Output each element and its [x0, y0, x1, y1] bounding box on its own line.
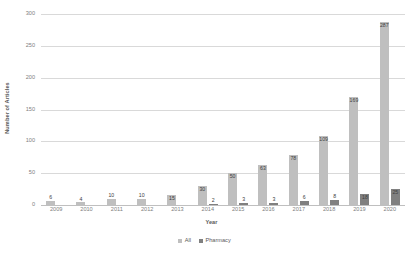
bar-value-label: 4 [80, 197, 83, 202]
bar-value-label: 10 [139, 193, 145, 198]
bar-value-label: 6 [49, 195, 52, 200]
y-axis-tick-label: 100 [26, 139, 35, 145]
legend-label: Pharmacy [206, 238, 231, 244]
legend-swatch-icon [178, 239, 182, 243]
bar[interactable]: 8 [330, 200, 339, 205]
bar-group: 16918 [344, 14, 374, 205]
bar-group: 503 [223, 14, 253, 205]
x-axis-tick-label: 2018 [314, 207, 344, 217]
bar-group: 786 [284, 14, 314, 205]
bar[interactable]: 2 [209, 204, 218, 205]
chart-legend: AllPharmacy [0, 238, 409, 244]
bar[interactable] [118, 204, 127, 205]
bar[interactable]: 6 [46, 201, 55, 205]
y-axis-title: Number of Articles [0, 0, 14, 215]
plot-wrapper: 050100150200250300 641010153025036337861… [14, 14, 409, 206]
bar[interactable]: 63 [258, 165, 267, 205]
bar-value-label: 78 [290, 156, 296, 161]
x-axis-title: Year [14, 219, 409, 225]
bar-value-label: 63 [260, 166, 266, 171]
bar-group: 302 [193, 14, 223, 205]
bar-value-label: 25 [392, 190, 398, 195]
bar-value-label: 15 [169, 196, 175, 201]
bar[interactable]: 169 [349, 97, 358, 205]
x-axis-tick-label: 2012 [132, 207, 162, 217]
bar[interactable]: 6 [300, 201, 309, 205]
bar[interactable]: 109 [319, 136, 328, 205]
bar[interactable]: 4 [76, 202, 85, 205]
x-axis-tick-label: 2019 [344, 207, 374, 217]
bar-value-label: 287 [380, 23, 389, 28]
y-axis-tick-label: 250 [26, 43, 35, 49]
bar[interactable]: 25 [391, 189, 400, 205]
bar[interactable]: 78 [289, 155, 298, 205]
bar-group: 10 [132, 14, 162, 205]
legend-swatch-icon [199, 239, 203, 243]
legend-item[interactable]: All [178, 238, 191, 244]
x-axis-tick-label: 2016 [253, 207, 283, 217]
bar-value-label: 10 [108, 193, 114, 198]
bar-value-label: 30 [199, 187, 205, 192]
bar-value-label: 2 [212, 198, 215, 203]
x-axis-tick-label: 2014 [193, 207, 223, 217]
x-axis-tick-label: 2011 [102, 207, 132, 217]
y-axis-title-text: Number of Articles [4, 82, 10, 134]
y-axis-tick-labels: 050100150200250300 [14, 14, 38, 206]
bar-value-label: 18 [362, 195, 368, 200]
plot-area: 6410101530250363378610981691828725 [41, 14, 405, 206]
bar[interactable] [57, 204, 66, 205]
bar-group: 28725 [375, 14, 405, 205]
bar[interactable]: 287 [380, 22, 389, 205]
x-axis-line [41, 205, 405, 206]
bar[interactable] [178, 204, 187, 205]
x-axis-tick-label: 2009 [41, 207, 71, 217]
y-axis-tick-label: 0 [32, 202, 35, 208]
bar-value-label: 6 [303, 195, 306, 200]
x-axis-tick-label: 2015 [223, 207, 253, 217]
bar-value-label: 3 [273, 197, 276, 202]
bar[interactable]: 3 [239, 203, 248, 205]
x-axis-tick-label: 2013 [162, 207, 192, 217]
y-axis-tick-label: 300 [26, 11, 35, 17]
bar-value-label: 109 [319, 137, 328, 142]
legend-label: All [185, 238, 191, 244]
x-axis-tick-labels: 2009201020112012201320142015201620172018… [41, 207, 405, 217]
bar[interactable]: 10 [137, 199, 146, 205]
bar-value-label: 3 [242, 197, 245, 202]
bar-value-label: 169 [350, 98, 359, 103]
bar-value-label: 8 [333, 194, 336, 199]
bar-group: 633 [253, 14, 283, 205]
bar[interactable]: 10 [107, 199, 116, 205]
bar[interactable] [148, 204, 157, 205]
x-axis-tick-label: 2017 [284, 207, 314, 217]
bar[interactable]: 3 [269, 203, 278, 205]
bar-group: 4 [71, 14, 101, 205]
bar-chart: Number of Articles 050100150200250300 64… [0, 0, 409, 257]
bar-group: 10 [102, 14, 132, 205]
x-axis-tick-label: 2020 [375, 207, 405, 217]
bar[interactable] [87, 204, 96, 205]
bars-layer: 6410101530250363378610981691828725 [41, 14, 405, 205]
legend-item[interactable]: Pharmacy [199, 238, 231, 244]
bar-group: 6 [41, 14, 71, 205]
bar-value-label: 50 [230, 174, 236, 179]
bar[interactable]: 30 [198, 186, 207, 205]
bar[interactable]: 50 [228, 173, 237, 205]
bar[interactable]: 18 [360, 194, 369, 205]
y-axis-tick-label: 200 [26, 75, 35, 81]
x-axis-tick-label: 2010 [71, 207, 101, 217]
y-axis-tick-label: 50 [29, 170, 35, 176]
bar-group: 15 [162, 14, 192, 205]
bar[interactable]: 15 [167, 195, 176, 205]
y-axis-tick-label: 150 [26, 107, 35, 113]
bar-group: 1098 [314, 14, 344, 205]
